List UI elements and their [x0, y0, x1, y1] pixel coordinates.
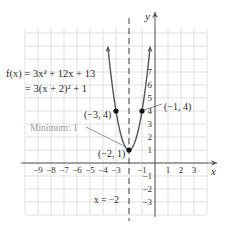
y-tick-label: −3 — [142, 197, 152, 207]
y-tick-label: 3 — [148, 119, 153, 129]
x-tick-label: −5 — [85, 165, 95, 175]
axes — [21, 12, 217, 217]
x-tick-label: −3 — [111, 165, 121, 175]
y-tick-label: 2 — [148, 132, 153, 142]
y-tick-label: 1 — [148, 145, 153, 155]
x-tick-label: 2 — [179, 165, 184, 175]
y-tick-label: 6 — [148, 80, 153, 90]
x-tick-label: −6 — [72, 165, 82, 175]
function-label-line2: = 3(x + 2)² + 1 — [25, 83, 87, 95]
data-point — [139, 108, 144, 113]
y-axis-label: y — [144, 10, 150, 22]
y-tick-label: −2 — [142, 184, 152, 194]
y-tick-label: 5 — [148, 93, 153, 103]
point-label-neg3-4: (−3, 4) — [84, 109, 111, 121]
data-point — [113, 108, 118, 113]
axis-of-symmetry-label: x = −2 — [94, 195, 119, 205]
point-label-neg1-4: (−1, 4) — [164, 101, 191, 113]
parabola-chart: −9−8−7−6−5−4−3−11237654321−1−2−3 f(x) = … — [0, 0, 226, 225]
grid — [25, 28, 207, 215]
minimum-label: Minimum: 1 — [30, 123, 78, 133]
x-tick-label: 1 — [166, 165, 171, 175]
x-tick-label: −8 — [46, 165, 56, 175]
x-axis-label: x — [210, 165, 216, 177]
function-label-line1: f(x) = 3x² + 12x + 13 — [6, 68, 95, 80]
y-tick-label: −1 — [142, 171, 152, 181]
x-tick-label: −9 — [33, 165, 43, 175]
point-label-vertex: (−2, 1) — [98, 148, 125, 160]
x-tick-label: −4 — [98, 165, 108, 175]
x-tick-label: 3 — [192, 165, 197, 175]
y-tick-label: 7 — [148, 67, 153, 77]
data-point — [126, 147, 131, 152]
x-tick-label: −7 — [59, 165, 69, 175]
